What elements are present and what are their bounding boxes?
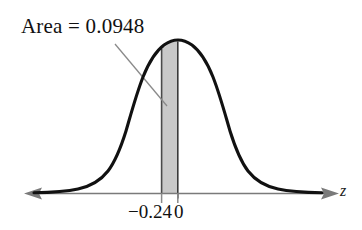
- axis-variable-label-z: z: [340, 182, 346, 200]
- axis-tick-labels: −0.24 0: [0, 201, 362, 227]
- annotation-leader-line: [115, 44, 167, 106]
- area-annotation-label: Area = 0.0948: [21, 14, 145, 38]
- tick-label-negative-024: −0.24: [128, 201, 172, 223]
- shaded-area-fill: [162, 42, 179, 194]
- tick-label-zero: 0: [174, 201, 184, 223]
- shaded-area-region: [162, 42, 179, 199]
- normal-curve-figure: Area = 0.0948 z −0.24 0: [0, 0, 362, 230]
